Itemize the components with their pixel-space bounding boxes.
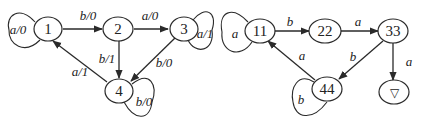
state-diagrams: a/0 b/0 a/0 b/1 a/1 b/0 a/1 b/0 [0, 0, 425, 127]
svg-text:3: 3 [180, 21, 188, 37]
down-triangle-icon: ▽ [390, 86, 400, 100]
edge-33-44 [339, 41, 383, 79]
state-node-2: 2 [103, 17, 133, 41]
edge-label-3-4: b/0 [156, 55, 173, 70]
mealy-machine-diagram: a/0 b/0 a/0 b/1 a/1 b/0 a/1 b/0 [8, 8, 213, 117]
svg-text:11: 11 [253, 23, 267, 39]
svg-text:44: 44 [320, 81, 336, 97]
edge-label-1-1: a/0 [10, 22, 27, 37]
edge-label-22-33: a [355, 14, 362, 29]
automaton-diagram: a b a b a a b 11 [221, 12, 412, 115]
edge-label-44-11: a [299, 48, 306, 63]
svg-text:1: 1 [44, 21, 52, 37]
svg-text:4: 4 [115, 83, 123, 99]
edge-label-4-4: b/0 [136, 94, 153, 109]
svg-text:22: 22 [318, 23, 333, 39]
edge-label-11-22: b [287, 14, 294, 29]
state-node-1: 1 [34, 17, 62, 41]
edge-label-33-44: b [350, 49, 357, 64]
edge-label-2-4: b/1 [99, 51, 116, 66]
edge-label-11-11: a [232, 26, 239, 41]
edge-label-1-2: b/0 [80, 8, 97, 23]
edge-label-4-1: a/1 [72, 64, 89, 79]
state-node-3: 3 [170, 17, 198, 41]
state-node-sink: ▽ [379, 80, 409, 104]
state-node-4: 4 [105, 79, 133, 103]
state-node-11: 11 [245, 19, 275, 43]
svg-text:2: 2 [114, 21, 122, 37]
diagram-canvas: a/0 b/0 a/0 b/1 a/1 b/0 a/1 b/0 [0, 0, 425, 127]
state-node-33: 33 [378, 19, 408, 43]
state-node-44: 44 [312, 77, 342, 101]
edge-label-2-3: a/0 [142, 8, 159, 23]
edge-label-33-sink: a [406, 54, 413, 69]
svg-text:33: 33 [386, 23, 401, 39]
edge-label-3-3: a/1 [197, 26, 214, 41]
state-node-22: 22 [309, 19, 341, 43]
edge-label-44-44: b [298, 92, 305, 107]
edge-44-11 [268, 41, 315, 80]
